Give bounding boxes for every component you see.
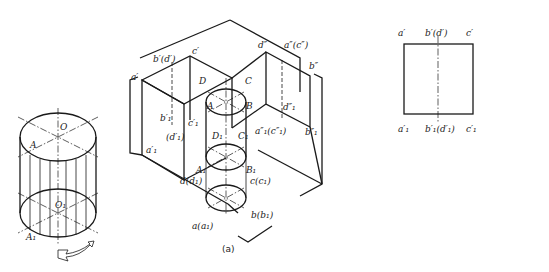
label-b-dprime: b″	[309, 61, 319, 71]
caption-a: (a)	[222, 244, 235, 254]
cylinder-projection-figure: O A O₁ A₁	[0, 0, 549, 272]
label-a-prime: a′	[131, 72, 138, 82]
front-view-rect	[404, 44, 473, 114]
label-b1-dprime: b″₁	[305, 127, 318, 137]
panel-b-orthographic: a′ b′(d′) c′ a′₁ b′₁(d′₁) c′₁	[398, 28, 477, 134]
label-A1: A₁	[25, 232, 36, 242]
label-c1-prime: c′₁	[188, 118, 199, 128]
label-d1-prime: (d′₁)	[166, 132, 185, 142]
label-front-bottom-left: a′₁	[398, 124, 409, 134]
label-O1: O₁	[55, 200, 66, 210]
label-d-dprime: d″	[258, 40, 268, 50]
label-b-b1: b(b₁)	[251, 210, 274, 220]
cylinder-pictorial: O A O₁ A₁	[18, 108, 98, 261]
label-front-bottom-mid: b′₁(d′₁)	[425, 124, 455, 134]
label-a-dprime-c-dprime: a″(c″)	[284, 40, 309, 50]
label-A: A	[29, 140, 37, 150]
label-d-d1: d(d₁)	[180, 176, 203, 186]
label-front-top-mid: b′(d′)	[425, 28, 448, 38]
label-a-a1: a(a₁)	[192, 221, 214, 231]
label-d1-dprime: d″₁	[283, 102, 296, 112]
label-D: D	[198, 76, 206, 86]
label-c-c1: c(c₁)	[250, 176, 271, 186]
label-c-prime: c′	[192, 46, 199, 56]
label-O: O	[60, 122, 68, 132]
label-front-top-left: a′	[398, 28, 405, 38]
label-B1-iso: B₁	[245, 165, 256, 175]
label-a1-dprime-c1-dprime: a″₁(c″₁)	[255, 126, 287, 136]
label-a1-prime: a′₁	[146, 145, 157, 155]
label-A-iso: A	[206, 101, 214, 111]
label-b1-prime: b′₁	[160, 113, 171, 123]
panel-a-isometric: a′ b′(d′) c′ d″ a″(c″) b″ D C A B b′₁ c′…	[130, 20, 322, 254]
label-b-prime-d-prime: b′(d′)	[153, 54, 176, 64]
label-D1: D₁	[211, 131, 223, 141]
label-C: C	[245, 76, 252, 86]
label-front-bottom-right: c′₁	[466, 124, 477, 134]
rotation-arrow-icon	[58, 241, 94, 261]
label-B-iso: B	[245, 101, 253, 111]
label-A1-iso: A₁	[195, 165, 206, 175]
label-front-top-right: c′	[466, 28, 473, 38]
label-C1: C₁	[238, 131, 249, 141]
